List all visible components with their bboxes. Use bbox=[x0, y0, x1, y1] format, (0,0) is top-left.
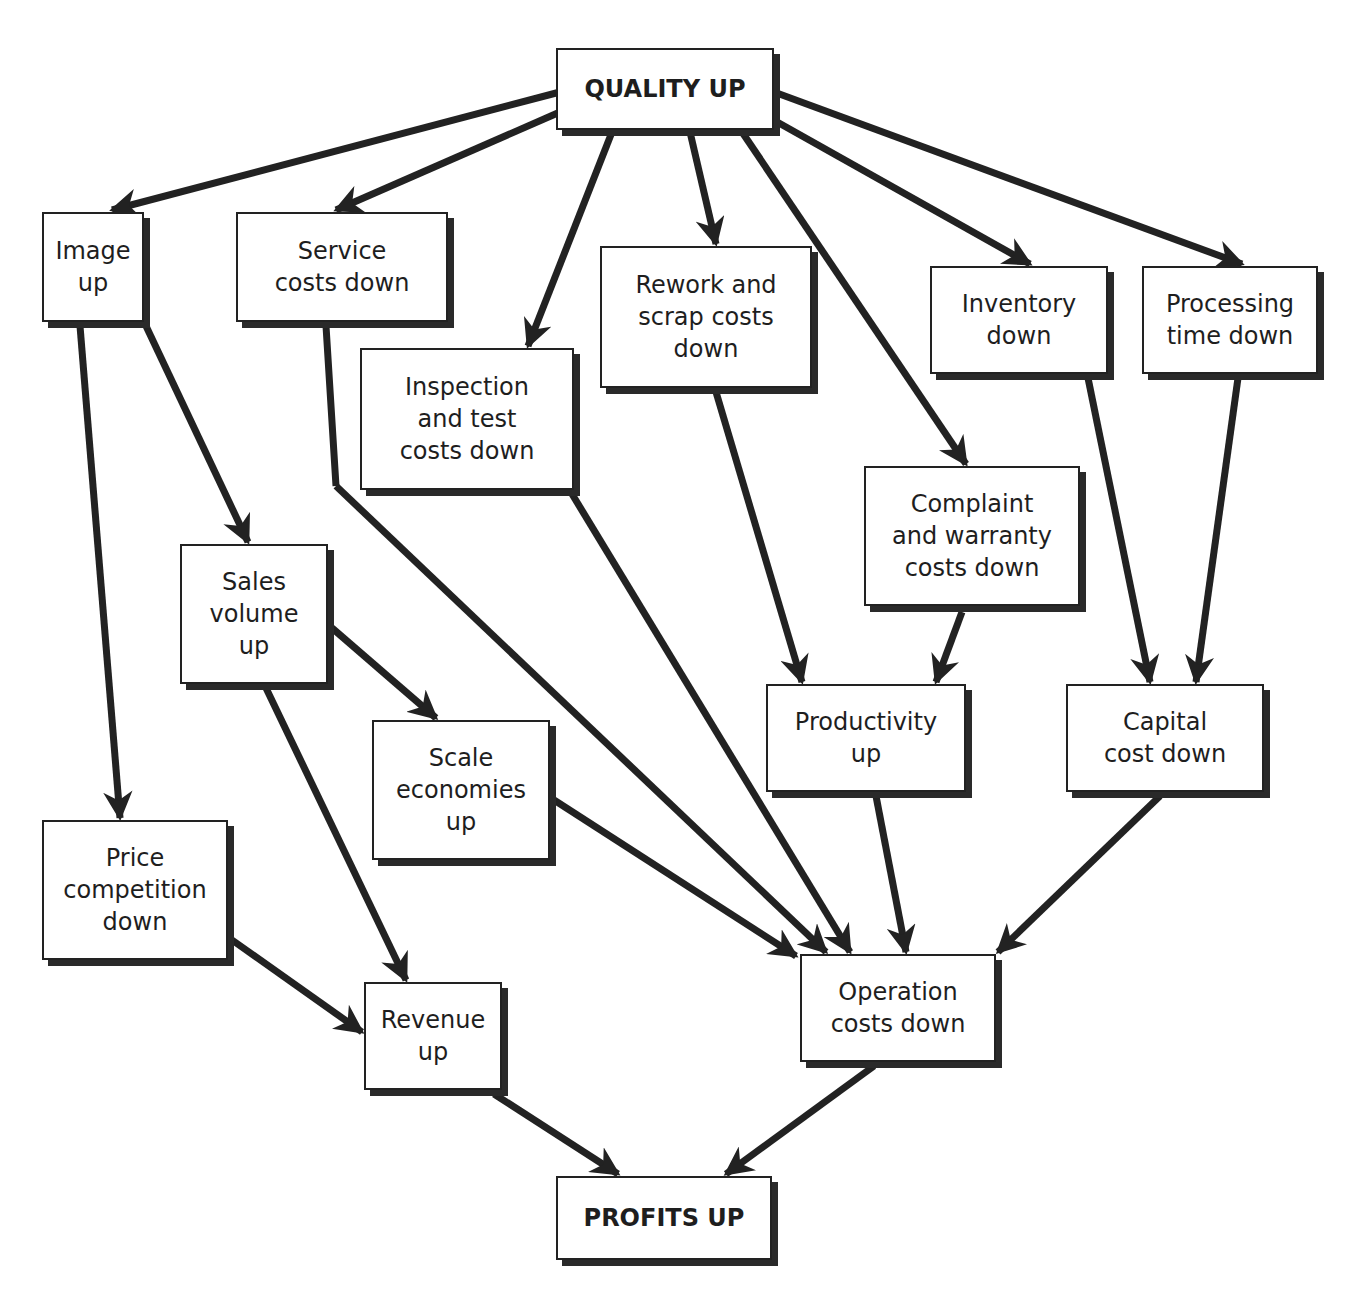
arrow-quality-to-processing bbox=[774, 92, 1242, 264]
node-image: Image up bbox=[42, 212, 144, 322]
node-label: QUALITY UP bbox=[584, 73, 745, 105]
arrow-inventory-to-capital bbox=[1088, 378, 1150, 682]
arrow-scale-to-operation bbox=[554, 800, 796, 956]
node-label: Price competition down bbox=[63, 842, 206, 938]
arrow-quality-to-image bbox=[112, 92, 560, 210]
node-price: Price competition down bbox=[42, 820, 228, 960]
node-profits: PROFITS UP bbox=[556, 1176, 772, 1260]
node-processing: Processing time down bbox=[1142, 266, 1318, 374]
node-label: Operation costs down bbox=[831, 976, 966, 1040]
node-label: Service costs down bbox=[275, 235, 410, 299]
arrow-productivity-to-operation bbox=[876, 796, 906, 952]
arrow-rework-to-productivity bbox=[716, 392, 802, 682]
arrow-service-to-operation bbox=[326, 326, 336, 486]
node-inspection: Inspection and test costs down bbox=[360, 348, 574, 490]
node-label: Capital cost down bbox=[1104, 706, 1226, 770]
node-capital: Capital cost down bbox=[1066, 684, 1264, 792]
arrow-image-to-sales bbox=[146, 326, 248, 542]
node-rework: Rework and scrap costs down bbox=[600, 246, 812, 388]
node-label: Productivity up bbox=[795, 706, 937, 770]
node-quality: QUALITY UP bbox=[556, 48, 774, 130]
arrow-operation-to-profits bbox=[726, 1066, 874, 1174]
arrow-service-to-operation bbox=[336, 486, 826, 952]
node-label: Rework and scrap costs down bbox=[635, 269, 776, 365]
node-sales: Sales volume up bbox=[180, 544, 328, 684]
arrow-complaint-to-productivity bbox=[936, 612, 962, 682]
node-label: Processing time down bbox=[1166, 288, 1294, 352]
arrow-image-to-price bbox=[80, 326, 120, 818]
quality-profit-diagram: QUALITY UPImage upService costs downInsp… bbox=[0, 0, 1357, 1293]
arrow-sales-to-scale bbox=[332, 628, 436, 718]
node-service: Service costs down bbox=[236, 212, 448, 322]
node-label: Complaint and warranty costs down bbox=[892, 488, 1052, 584]
arrow-capital-to-operation bbox=[998, 796, 1160, 952]
node-label: Scale economies up bbox=[396, 742, 526, 838]
node-productivity: Productivity up bbox=[766, 684, 966, 792]
node-label: Revenue up bbox=[381, 1004, 486, 1068]
arrow-processing-to-capital bbox=[1196, 378, 1238, 682]
node-label: Inventory down bbox=[962, 288, 1077, 352]
node-label: Image up bbox=[55, 235, 130, 299]
arrow-quality-to-service bbox=[336, 112, 560, 210]
node-scale: Scale economies up bbox=[372, 720, 550, 860]
node-label: PROFITS UP bbox=[584, 1202, 745, 1234]
arrow-price-to-revenue bbox=[232, 940, 362, 1032]
node-label: Inspection and test costs down bbox=[400, 371, 535, 467]
node-revenue: Revenue up bbox=[364, 982, 502, 1090]
arrow-revenue-to-profits bbox=[494, 1094, 618, 1174]
node-label: Sales volume up bbox=[210, 566, 299, 662]
node-complaint: Complaint and warranty costs down bbox=[864, 466, 1080, 606]
node-operation: Operation costs down bbox=[800, 954, 996, 1062]
arrow-quality-to-rework bbox=[690, 132, 716, 244]
node-inventory: Inventory down bbox=[930, 266, 1108, 374]
